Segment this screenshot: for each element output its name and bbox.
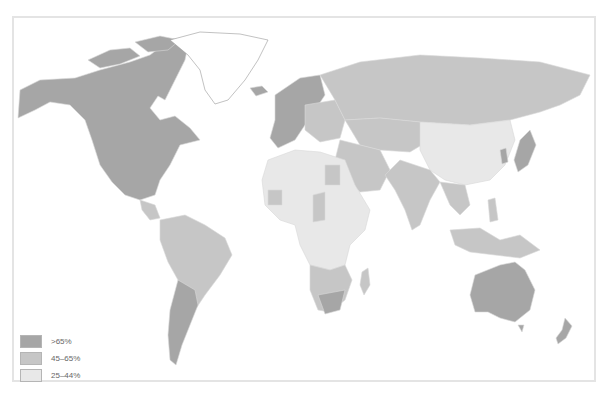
legend-swatch	[20, 352, 42, 365]
world-map	[0, 0, 606, 395]
legend-swatch	[20, 369, 42, 382]
region-russia	[320, 55, 590, 125]
region-greenland	[170, 32, 268, 104]
region-japan	[514, 130, 536, 172]
region-southeast-asia	[440, 182, 470, 215]
legend-item-mid: 45–65%	[20, 350, 80, 367]
legend-item-high: >65%	[20, 333, 80, 350]
legend-label: 45–65%	[51, 354, 80, 363]
legend-label: >65%	[51, 337, 72, 346]
legend-swatch	[20, 335, 42, 348]
region-argentina-chile	[168, 280, 198, 365]
region-australia	[470, 262, 535, 322]
legend-item-low: 25–44%	[20, 367, 80, 384]
map-legend: >65% 45–65% 25–44%	[20, 333, 80, 384]
legend-label: 25–44%	[51, 371, 80, 380]
region-new-zealand	[556, 318, 572, 344]
